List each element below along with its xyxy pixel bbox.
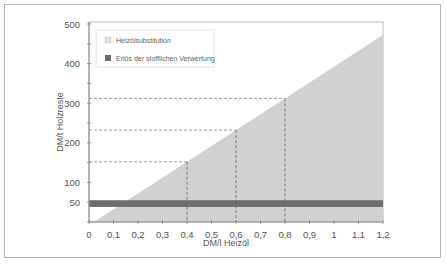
y-tick-label: 400 — [64, 58, 80, 69]
y-tick-label: 200 — [64, 137, 80, 148]
x-tick-label: 0,8 — [278, 229, 291, 240]
y-tick-label: 500 — [64, 19, 80, 30]
x-tick-label: 1,2 — [376, 229, 389, 240]
x-axis-title: DM/l Heizöl — [203, 238, 249, 248]
x-tick-label: 0,7 — [254, 229, 267, 240]
x-tick-label: 0 — [86, 229, 91, 240]
legend-swatch-erloes — [105, 55, 111, 61]
legend-swatch-heizoel — [105, 37, 111, 43]
x-tick-label: 0,3 — [156, 229, 169, 240]
x-tick-label: 0,1 — [107, 229, 120, 240]
legend: Heizölsubstitution Erlös der stofflichen… — [96, 30, 215, 67]
x-tick-label: 0,2 — [131, 229, 144, 240]
y-tick-label: 50 — [69, 197, 80, 208]
y-tick-label: 300 — [64, 98, 80, 109]
y-tick-label: 100 — [64, 177, 80, 188]
x-tick-label: 1 — [331, 229, 336, 240]
chart: 00,10,20,30,40,50,60,70,80,911,11,250100… — [0, 0, 446, 266]
legend-label-heizoel: Heizölsubstitution — [116, 37, 171, 44]
x-tick-label: 1,1 — [352, 229, 365, 240]
x-tick-label: 0,4 — [180, 229, 193, 240]
legend-label-erloes: Erlös der stofflichen Verwertung — [116, 55, 215, 63]
y-axis-title: DM/t Holzreste — [55, 92, 65, 152]
x-tick-label: 0,9 — [303, 229, 316, 240]
